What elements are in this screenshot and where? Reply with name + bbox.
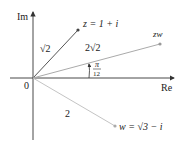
modulus-w-label: 2 (65, 108, 70, 119)
y-axis-label: Im (17, 11, 28, 22)
modulus-z-label: √2 (40, 43, 51, 54)
x-axis-label: Re (161, 82, 173, 93)
vector-w (33, 78, 115, 126)
angle-arc (89, 64, 90, 78)
point-z (76, 28, 79, 31)
modulus-zw-label: 2√2 (85, 42, 101, 53)
point-w (113, 124, 116, 127)
vector-z (33, 30, 78, 78)
origin-label: 0 (24, 80, 29, 91)
complex-plane-diagram: Im Re 0 z = 1 + i zw w = √3 − i √2 2√2 2… (0, 0, 184, 143)
point-z-label: z = 1 + i (82, 18, 118, 29)
angle-denominator: 12 (93, 70, 101, 78)
angle-numerator: π (95, 60, 100, 69)
point-zw (158, 42, 161, 45)
point-zw-label: zw (152, 29, 163, 39)
point-w-label: w = √3 − i (119, 121, 163, 132)
